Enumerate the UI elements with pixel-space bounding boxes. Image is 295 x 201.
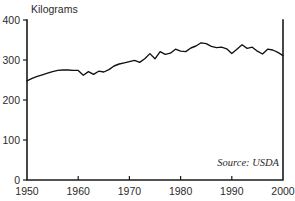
plot-axes-frame [27,20,283,180]
y-axis-tick-labels: 0100200300400 [2,14,20,186]
y-axis-tick-label: 300 [2,54,20,66]
x-axis-tick-label: 1970 [118,185,142,197]
y-axis-tick-label: 200 [2,94,20,106]
x-axis-tick-label: 1980 [169,185,193,197]
x-axis-tick-label: 2000 [271,185,295,197]
line-chart: Kilograms 0100200300400 1950196019701980… [0,0,295,201]
source-note: Source: USDA [217,157,279,168]
x-axis-tick-label: 1950 [15,185,39,197]
y-axis-unit-label: Kilograms [31,3,78,15]
y-axis-tick-label: 400 [2,14,20,26]
x-axis-tick-labels: 195019601970198019902000 [15,185,295,197]
y-axis-tick-label: 0 [14,174,20,186]
x-axis-tick-label: 1990 [220,185,244,197]
y-axis-tick-label: 100 [2,134,20,146]
data-series-line [27,43,283,81]
chart-container: Kilograms 0100200300400 1950196019701980… [0,0,295,201]
x-axis-tick-label: 1960 [67,185,91,197]
